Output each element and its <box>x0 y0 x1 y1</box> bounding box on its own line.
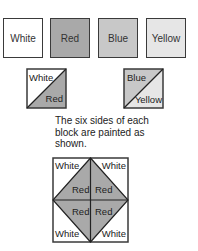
block-top-label: Blue <box>127 73 146 83</box>
swatch-label: Yellow <box>152 33 181 44</box>
caption: The six sides of each block are painted … <box>55 115 165 150</box>
corner-label-top-right: White <box>102 161 126 171</box>
corner-label-top-left: White <box>55 161 79 171</box>
swatch-label: Red <box>61 33 79 44</box>
center-label-top-left: Red <box>72 185 89 195</box>
swatch-blue: Blue <box>98 18 138 58</box>
block-pattern-grid: White White White White Red Red Red Red <box>52 157 129 243</box>
center-label-bottom-left: Red <box>72 207 89 217</box>
caption-line: block are painted as <box>55 127 165 139</box>
block-bottom-label: Yellow <box>135 95 162 105</box>
center-label-top-right: Red <box>95 185 112 195</box>
corner-label-bottom-left: White <box>55 229 79 239</box>
block-blue-yellow: Blue Yellow <box>123 68 164 109</box>
caption-line: shown. <box>55 138 165 150</box>
block-white-red: White Red <box>26 68 67 109</box>
caption-line: The six sides of each <box>55 115 165 127</box>
swatch-label: Blue <box>108 33 128 44</box>
corner-label-bottom-right: White <box>102 229 126 239</box>
swatch-yellow: Yellow <box>146 18 186 58</box>
swatch-white: White <box>3 18 43 58</box>
swatch-label: White <box>10 33 36 44</box>
center-label-bottom-right: Red <box>95 207 112 217</box>
block-bottom-label: Red <box>46 94 63 104</box>
block-top-label: White <box>29 73 53 83</box>
swatch-red: Red <box>50 18 90 58</box>
